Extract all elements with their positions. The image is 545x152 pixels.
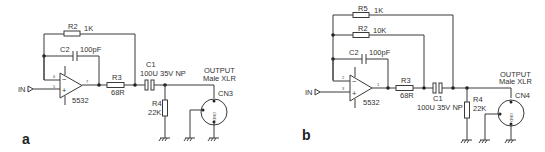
r3-ref: R3 <box>112 73 122 82</box>
r2-wire-right <box>369 35 424 88</box>
pin-plus: 5 <box>53 84 56 89</box>
r2-ref: R2 <box>358 24 368 33</box>
panel-label-b: b <box>302 127 311 143</box>
input-label: IN <box>305 88 313 97</box>
connector-subtitle: Male XLR <box>499 77 533 86</box>
c1-ref: C1 <box>433 94 443 103</box>
ground-icon <box>159 138 170 141</box>
ground-icon <box>479 140 490 143</box>
connector-subtitle: Male XLR <box>203 74 237 83</box>
resistor-r3 <box>107 83 124 88</box>
resistor-r4 <box>163 100 168 116</box>
r2-value: 10K <box>373 26 386 35</box>
r3-ref: R3 <box>401 76 411 85</box>
r3-value: 68R <box>400 91 414 100</box>
pin-minus: 2 <box>342 75 345 80</box>
c1-output-wire <box>154 85 214 98</box>
junction-dot <box>386 86 390 90</box>
capacitor-c1-plate <box>145 80 148 90</box>
plus-sign: + <box>352 89 357 98</box>
ground-icon <box>505 140 516 143</box>
panel-label-a: a <box>22 131 30 147</box>
gnd-label: GND <box>509 113 514 122</box>
opamp-ref: 5532 <box>72 96 89 105</box>
resistor-r2 <box>353 33 369 38</box>
connector-ref: CN4 <box>515 91 530 100</box>
r5-ref: R5 <box>358 4 368 13</box>
ground-icon <box>184 138 195 141</box>
junction-dot <box>97 83 101 87</box>
junction-dot <box>331 33 335 37</box>
c1-value: 100U 35V NP <box>140 69 186 78</box>
resistor-r2 <box>64 31 80 36</box>
inverting-input-wire <box>44 56 60 80</box>
r3-value: 68R <box>111 88 125 97</box>
c2-ref: C2 <box>349 48 359 57</box>
gnd-label: GND <box>212 112 217 121</box>
c2-value: 100pF <box>369 48 391 57</box>
r4-value: 22K <box>473 104 486 113</box>
plus-sign: + <box>62 86 67 95</box>
xlr-pin <box>213 100 216 103</box>
capacitor-c1-plate <box>433 83 436 93</box>
r4-value: 22K <box>148 108 161 117</box>
panel-a: R2 1K C2 100pF − + 6 5 7 5532 IN R3 68R <box>18 22 237 147</box>
r5-value: 1K <box>374 6 383 15</box>
pin-plus: 3 <box>342 86 345 91</box>
pin-minus: 6 <box>53 74 56 79</box>
input-label: IN <box>18 85 26 94</box>
c1-value: 100U 35V NP <box>417 103 463 112</box>
r2-value: 1K <box>84 24 93 33</box>
minus-sign: − <box>352 77 357 86</box>
connector-ref: CN3 <box>218 89 233 98</box>
junction-dot <box>422 86 426 90</box>
resistor-r5 <box>353 13 369 18</box>
r2-ref: R2 <box>68 22 78 31</box>
r4-ref: R4 <box>473 95 483 104</box>
schematic-figure: R2 1K C2 100pF − + 6 5 7 5532 IN R3 68R <box>0 0 545 152</box>
resistor-r4 <box>465 102 470 118</box>
junction-dot <box>133 83 137 87</box>
c2-value: 100pF <box>80 45 102 54</box>
resistor-r3 <box>396 86 413 91</box>
feedback-wire-right <box>80 34 135 85</box>
panel-b: R5 1K R2 10K C2 100pF − + 2 3 1 5532 IN <box>302 4 533 143</box>
xlr-pin3-wire <box>485 114 500 140</box>
r4-ref: R4 <box>152 99 162 108</box>
input-arrow-icon <box>315 89 320 95</box>
xlr-pin <box>510 101 513 104</box>
junction-dot <box>451 86 455 90</box>
opamp-ref: 5532 <box>363 98 380 107</box>
capacitor-c1-plate <box>439 83 442 93</box>
minus-sign: − <box>62 75 67 84</box>
pin-out: 1 <box>377 82 380 87</box>
c2-ref: C2 <box>60 45 70 54</box>
c1-ref: C1 <box>146 60 156 69</box>
ground-icon <box>461 140 472 143</box>
pin-out: 7 <box>86 79 89 84</box>
capacitor-c1-plate <box>151 80 154 90</box>
ground-icon <box>208 138 219 141</box>
input-arrow-icon <box>28 86 33 92</box>
